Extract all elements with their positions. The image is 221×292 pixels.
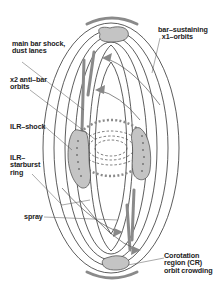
leader-x2-orbits: [30, 90, 96, 140]
corotation-blob-top: [99, 27, 129, 42]
x2-orbit-inner: [95, 140, 127, 156]
label-ilr-starburst: ILR– starburst ring: [10, 154, 40, 176]
arrowhead-icon: [113, 228, 123, 237]
dust-lane-left-top: [88, 52, 94, 95]
label-corotation: Corotation region (CR) orbit crowding: [164, 252, 213, 274]
label-x2-orbits: x2 anti–bar orbits: [10, 76, 47, 91]
corotation-blob-bottom: [102, 256, 129, 270]
spray-arrow-top-2: [98, 90, 140, 120]
dust-lane-left-mid: [82, 60, 84, 130]
ilr-shock-blob-left: [68, 130, 91, 188]
leader-corotation: [128, 258, 164, 265]
label-ilr-shock: ILR–shock: [10, 123, 45, 130]
arrowhead-icon: [102, 53, 112, 62]
label-main-bar-shock: main bar shock, dust lanes: [12, 40, 65, 55]
label-spray: spray: [24, 213, 43, 220]
x1-orbit-pointed-1: [89, 45, 133, 251]
leader-x1-orbits: [152, 38, 160, 73]
leader-ilr-shock: [42, 124, 72, 150]
spray-arrow-bottom-1: [62, 188, 120, 232]
dust-lane-right-bottom: [132, 190, 134, 240]
label-x1-orbits: bar–sustaining x1–orbits: [158, 26, 208, 41]
